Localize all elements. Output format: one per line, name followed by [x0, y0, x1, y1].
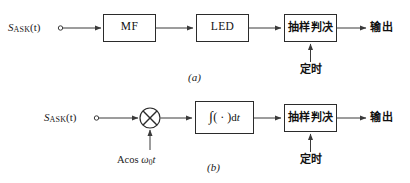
- input-node-b: [94, 116, 98, 120]
- carrier-label: Acos ω0t: [117, 155, 155, 166]
- timing-label-b: 定时: [296, 154, 326, 165]
- block-label-matched-filter: MF: [104, 21, 156, 33]
- integrator-operand: ( · ): [213, 110, 231, 124]
- input-signal-arg-a: (t): [30, 21, 40, 33]
- block-label-sampling-decision-b: 抽样判决: [285, 112, 337, 123]
- input-signal-label-a: SASK(t): [8, 22, 41, 34]
- block-label-led: LED: [197, 21, 249, 33]
- caption-a-text: (a): [188, 71, 201, 83]
- input-signal-label-b: SASK(t): [44, 112, 77, 124]
- caption-b: (b): [207, 162, 220, 173]
- integrator-expression: ∫( · )dt: [196, 110, 254, 124]
- integrator-differential: dt: [231, 111, 240, 123]
- input-signal-arg-b: (t): [66, 111, 76, 123]
- carrier-omega: ω: [141, 154, 148, 165]
- figure-canvas: SASK(t) MF LED 抽样判决 定时 输出 (a) SASK(t) Ac…: [0, 0, 410, 183]
- output-label-b: 输出: [370, 112, 393, 123]
- input-signal-sub-b: ASK: [50, 115, 67, 124]
- caption-b-text: (b): [207, 161, 220, 173]
- carrier-variable: t: [152, 154, 155, 165]
- caption-a: (a): [188, 72, 201, 83]
- output-label-a: 输出: [370, 22, 393, 33]
- carrier-amplitude: Acos: [117, 154, 139, 165]
- input-signal-sub-a: ASK: [14, 25, 31, 34]
- input-node-a: [58, 26, 62, 30]
- block-label-sampling-decision-a: 抽样判决: [285, 22, 337, 33]
- timing-label-a: 定时: [296, 64, 326, 75]
